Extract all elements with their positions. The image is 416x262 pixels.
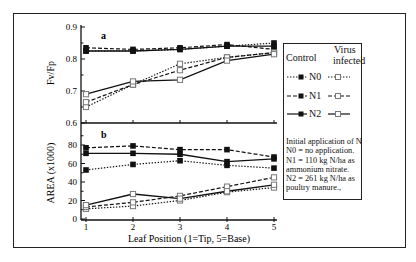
open-square-marker [130,191,135,196]
legend-virus-header-2: infected [333,56,365,66]
legend-row-n2: N2 [284,108,361,120]
y-tick-label: 0.6 [66,118,78,128]
y-tick-label: 40 [68,177,78,187]
series-line [86,54,274,94]
filled-square-marker [299,75,304,80]
legend-label-n0: N0 [309,72,321,82]
filled-square-marker [177,47,183,53]
legend-control-header: Control [286,53,317,63]
legend-sample-control-n0 [287,71,307,83]
axes: 0.60.70.80.912345020406080 [66,22,277,232]
open-square-marker [336,112,341,117]
legend-row-n1: N1 [284,90,361,102]
x-tick-label: 2 [131,222,136,232]
open-square-marker [177,77,182,82]
filled-square-marker [299,112,304,117]
legend-note: N1 = 110 kg N/ha as [286,156,362,165]
open-square-marker [177,196,182,201]
open-square-marker [271,175,276,180]
y-axis-label-a: Fv/Fp [45,61,56,85]
y-tick-label: 80 [68,140,78,150]
filled-square-marker [130,48,136,54]
legend-sample-control-n2 [287,108,307,120]
filled-square-marker [177,158,183,164]
filled-square-marker [83,167,89,173]
open-square-marker [83,203,88,208]
legend-sample-virus-n0 [328,71,350,83]
panel-a-label: a [101,30,106,41]
open-square-marker [224,189,229,194]
filled-square-marker [83,48,89,54]
filled-square-marker [83,145,89,151]
open-square-marker [336,75,341,80]
legend-notes: Initial application of N N0 = no applica… [286,137,362,193]
legend-virus-header: Virus [334,45,356,55]
legend-sample-virus-n1 [328,90,350,102]
y-tick-label: 0 [73,214,78,224]
x-tick-label: 3 [178,222,183,232]
open-square-marker [177,68,182,73]
filled-square-marker [177,151,183,157]
open-square-marker [336,94,341,99]
y-tick-label: 60 [68,159,78,169]
legend-label-n2: N2 [309,109,321,119]
legend-row-n0: N0 [284,71,361,83]
x-tick-label: 1 [84,222,89,232]
open-square-marker [271,52,276,57]
legend-note: N0 = no application. [286,146,362,155]
legend-note: N2 = 261 kg N/ha as [286,174,362,183]
open-square-marker [224,58,229,63]
legend-sample-virus-n2 [328,108,350,120]
open-square-marker [83,100,88,105]
legend-sample-control-n1 [287,90,307,102]
open-square-marker [271,182,276,187]
filled-square-marker [130,143,136,149]
open-square-marker [83,92,88,97]
series-group [83,40,277,211]
legend-label-n1: N1 [309,91,321,101]
filled-square-marker [271,165,277,171]
filled-square-marker [130,151,136,157]
y-tick-label: 20 [68,196,78,206]
filled-square-marker [224,147,230,153]
filled-square-marker [299,94,304,99]
y-tick-label: 0.8 [66,54,78,64]
x-axis-label: Leaf Position (1=Tip, 5=Base) [128,233,250,245]
filled-square-marker [224,43,230,49]
filled-square-marker [224,159,230,165]
filled-square-marker [271,156,277,162]
filled-square-marker [83,151,89,157]
legend-note: poultry manure., [286,183,362,192]
y-tick-label: 0.9 [66,22,78,32]
panel-b-label: b [101,129,107,140]
x-tick-label: 4 [225,222,230,232]
legend-note: ammonium nitrate. [286,165,362,174]
open-square-marker [130,79,135,84]
y-tick-label: 0.7 [66,86,78,96]
open-square-marker [177,61,182,66]
x-tick-label: 5 [272,222,277,232]
legend-note: Initial application of N [286,137,362,146]
legend: Control Virus infected N0 N1 N2 Initial … [283,43,362,200]
open-square-marker [130,200,135,205]
y-axis-label-b: AREA (x1000) [45,143,57,204]
filled-square-marker [271,43,277,49]
filled-square-marker [130,162,136,168]
